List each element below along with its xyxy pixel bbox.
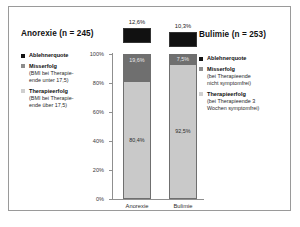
segment-value: 19,6% (124, 57, 150, 63)
y-tick-label: 0% (96, 196, 104, 202)
anorexie-refusal-box (123, 28, 151, 43)
group-title-bulimie: Bulimie (n = 253) (199, 30, 266, 39)
segment-therapieerfolg: 92,5% (169, 65, 197, 199)
bulimie-refusal-box (169, 32, 197, 47)
legend-label: Misserfolg (199, 66, 295, 73)
bulimie-refusal-value: 10,3% (163, 23, 203, 29)
y-axis (112, 53, 113, 200)
y-tick-label: 100% (90, 51, 104, 57)
legend-sublabel: (BMI bei Therapie- (21, 95, 117, 102)
legend-sublabel: (bei Therapieende 3 (199, 98, 295, 105)
segment-misserfolg: 7,5% (169, 54, 197, 65)
y-tick-label: 80% (93, 80, 104, 86)
chart-frame: Anorexie (n = 245) Bulimie (n = 253) Abl… (8, 6, 291, 211)
x-category-label-anorexie: Anorexie (114, 203, 160, 209)
legend-label: Therapieerfolg (21, 88, 117, 95)
bar-bulimie: 7,5% 92,5% (169, 54, 197, 199)
x-axis (112, 199, 204, 200)
bar-anorexie: 19,6% 80,4% (123, 54, 151, 199)
legend-label: Ablehnerquote (199, 55, 295, 62)
anorexie-refusal-value: 12,6% (117, 19, 157, 25)
plot-area: 100% 80% 60% 40% 20% 0% 19,6% 80,4% 7,5%… (112, 53, 204, 200)
legend-label: Misserfolg (21, 63, 117, 70)
legend-sublabel: (BMI bei Therapie- (21, 70, 117, 77)
legend-marker-black-icon (21, 54, 25, 58)
legend-marker-light-icon (21, 89, 25, 93)
segment-value: 92,5% (170, 128, 196, 134)
legend-item-ablehnerquote: Ablehnerquote (199, 55, 295, 62)
segment-misserfolg: 19,6% (123, 54, 151, 82)
y-tick-label: 40% (93, 138, 104, 144)
legend-label: Therapieerfolg (199, 91, 295, 98)
legend-item-therapieerfolg: Therapieerfolg (BMI bei Therapie- ende ü… (21, 88, 117, 110)
legend-sublabel: nicht symptomfrei) (199, 80, 295, 87)
legend-marker-dark-icon (21, 64, 25, 68)
group-title-anorexie: Anorexie (n = 245) (21, 29, 94, 38)
segment-value: 7,5% (170, 56, 196, 62)
legend-item-misserfolg: Misserfolg (bei Therapieende nicht sympt… (199, 66, 295, 88)
legend-bulimie: Ablehnerquote Misserfolg (bei Therapieen… (199, 55, 295, 113)
legend-item-therapieerfolg: Therapieerfolg (bei Therapieende 3 Woche… (199, 91, 295, 113)
legend-sublabel: (bei Therapieende (199, 73, 295, 80)
segment-therapieerfolg: 80,4% (123, 82, 151, 199)
legend-sublabel: Wochen symptomfrei) (199, 105, 295, 112)
segment-value: 80,4% (124, 137, 150, 143)
y-tick-label: 60% (93, 109, 104, 115)
y-tick-label: 20% (93, 167, 104, 173)
x-category-label-bulimie: Bulimie (160, 203, 206, 209)
